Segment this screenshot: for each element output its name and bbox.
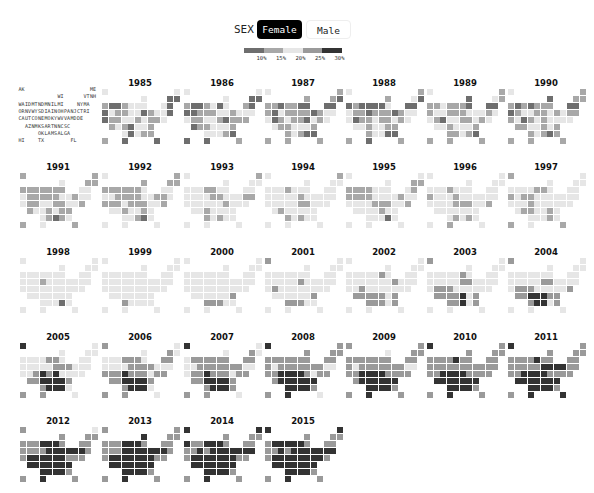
state-tile-va[interactable] bbox=[392, 371, 398, 377]
state-tile-or[interactable] bbox=[427, 279, 433, 285]
state-tile-ga[interactable] bbox=[473, 215, 479, 221]
state-tile-mi[interactable] bbox=[466, 103, 472, 109]
state-tile-mn[interactable] bbox=[453, 357, 459, 363]
state-tile-ms[interactable] bbox=[217, 131, 223, 137]
state-tile-vt[interactable] bbox=[573, 96, 579, 102]
state-tile-pa[interactable] bbox=[392, 279, 398, 285]
state-tile-wy[interactable] bbox=[115, 110, 121, 116]
state-tile-nd[interactable] bbox=[204, 357, 210, 363]
state-tile-vt[interactable] bbox=[167, 180, 173, 186]
state-tile-fl[interactable] bbox=[398, 138, 404, 144]
state-tile-ia[interactable] bbox=[210, 364, 216, 370]
state-tile-mo[interactable] bbox=[128, 201, 134, 207]
state-tile-co[interactable] bbox=[440, 371, 446, 377]
state-tile-ga[interactable] bbox=[311, 469, 317, 475]
state-tile-ak[interactable] bbox=[427, 89, 433, 95]
state-tile-ar[interactable] bbox=[46, 378, 52, 384]
state-tile-ca[interactable] bbox=[184, 201, 190, 207]
state-tile-mt[interactable] bbox=[521, 272, 527, 278]
state-tile-nd[interactable] bbox=[40, 272, 46, 278]
state-tile-co[interactable] bbox=[359, 371, 365, 377]
state-tile-sd[interactable] bbox=[122, 364, 128, 370]
state-tile-md[interactable] bbox=[154, 117, 160, 123]
state-tile-ky[interactable] bbox=[53, 286, 59, 292]
state-tile-ak[interactable] bbox=[427, 258, 433, 264]
state-tile-pa[interactable] bbox=[230, 279, 236, 285]
state-tile-il[interactable] bbox=[541, 103, 547, 109]
state-tile-nv[interactable] bbox=[515, 279, 521, 285]
state-tile-ar[interactable] bbox=[46, 462, 52, 468]
state-tile-oh[interactable] bbox=[547, 110, 553, 116]
state-tile-nc[interactable] bbox=[304, 293, 310, 299]
state-tile-oh[interactable] bbox=[466, 279, 472, 285]
state-tile-md[interactable] bbox=[72, 455, 78, 461]
state-tile-ms[interactable] bbox=[541, 385, 547, 391]
state-tile-ct[interactable] bbox=[243, 194, 249, 200]
state-tile-ia[interactable] bbox=[291, 110, 297, 116]
state-tile-ri[interactable] bbox=[85, 194, 91, 200]
state-tile-ga[interactable] bbox=[392, 215, 398, 221]
state-tile-wa[interactable] bbox=[427, 103, 433, 109]
state-tile-or[interactable] bbox=[102, 110, 108, 116]
state-tile-ut[interactable] bbox=[434, 371, 440, 377]
state-tile-tx[interactable] bbox=[528, 307, 534, 313]
state-tile-nd[interactable] bbox=[528, 187, 534, 193]
state-tile-oh[interactable] bbox=[547, 194, 553, 200]
state-tile-pa[interactable] bbox=[473, 279, 479, 285]
female-button[interactable]: Female bbox=[257, 20, 302, 39]
state-tile-hi[interactable] bbox=[265, 476, 271, 482]
state-tile-ca[interactable] bbox=[508, 286, 514, 292]
state-tile-al[interactable] bbox=[59, 215, 65, 221]
state-tile-ca[interactable] bbox=[265, 201, 271, 207]
state-tile-tx[interactable] bbox=[122, 392, 128, 398]
state-tile-mo[interactable] bbox=[46, 371, 52, 377]
state-tile-ms[interactable] bbox=[460, 385, 466, 391]
state-tile-wv[interactable] bbox=[547, 201, 553, 207]
state-tile-in[interactable] bbox=[53, 279, 59, 285]
state-tile-tx[interactable] bbox=[40, 392, 46, 398]
state-tile-ct[interactable] bbox=[161, 448, 167, 454]
state-tile-ri[interactable] bbox=[492, 194, 498, 200]
state-tile-ms[interactable] bbox=[135, 469, 141, 475]
state-tile-wi[interactable] bbox=[466, 96, 472, 102]
state-tile-de[interactable] bbox=[405, 371, 411, 377]
state-tile-nv[interactable] bbox=[191, 364, 197, 370]
state-tile-ok[interactable] bbox=[447, 300, 453, 306]
state-tile-ma[interactable] bbox=[85, 441, 91, 447]
state-tile-ky[interactable] bbox=[217, 455, 223, 461]
state-tile-fl[interactable] bbox=[317, 222, 323, 228]
state-tile-va[interactable] bbox=[148, 371, 154, 377]
state-tile-tn[interactable] bbox=[379, 378, 385, 384]
state-tile-fl[interactable] bbox=[479, 222, 485, 228]
state-tile-me[interactable] bbox=[580, 343, 586, 349]
state-tile-nm[interactable] bbox=[359, 208, 365, 214]
state-tile-tn[interactable] bbox=[460, 208, 466, 214]
state-tile-ms[interactable] bbox=[217, 215, 223, 221]
state-tile-ok[interactable] bbox=[447, 215, 453, 221]
state-tile-fl[interactable] bbox=[560, 222, 566, 228]
state-tile-wv[interactable] bbox=[141, 371, 147, 377]
state-tile-ia[interactable] bbox=[453, 194, 459, 200]
state-tile-az[interactable] bbox=[191, 462, 197, 468]
state-tile-ga[interactable] bbox=[148, 215, 154, 221]
state-tile-ca[interactable] bbox=[265, 117, 271, 123]
state-tile-la[interactable] bbox=[291, 385, 297, 391]
state-tile-ms[interactable] bbox=[298, 469, 304, 475]
state-tile-ms[interactable] bbox=[135, 131, 141, 137]
state-tile-nv[interactable] bbox=[109, 448, 115, 454]
state-tile-al[interactable] bbox=[223, 385, 229, 391]
state-tile-ct[interactable] bbox=[486, 194, 492, 200]
state-tile-ca[interactable] bbox=[102, 117, 108, 123]
state-tile-id[interactable] bbox=[272, 103, 278, 109]
state-tile-nc[interactable] bbox=[304, 124, 310, 130]
state-tile-la[interactable] bbox=[291, 300, 297, 306]
state-tile-ne[interactable] bbox=[122, 286, 128, 292]
state-tile-me[interactable] bbox=[256, 343, 262, 349]
state-tile-ri[interactable] bbox=[330, 110, 336, 116]
state-tile-la[interactable] bbox=[372, 385, 378, 391]
state-tile-wy[interactable] bbox=[115, 448, 121, 454]
state-tile-ok[interactable] bbox=[528, 300, 534, 306]
state-tile-ri[interactable] bbox=[411, 279, 417, 285]
state-tile-id[interactable] bbox=[272, 441, 278, 447]
state-tile-fl[interactable] bbox=[560, 307, 566, 313]
